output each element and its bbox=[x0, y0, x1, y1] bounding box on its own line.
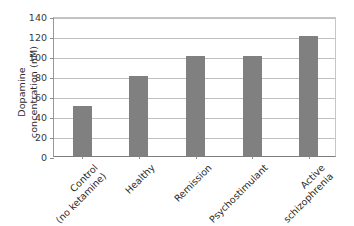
bar[interactable] bbox=[299, 36, 318, 156]
y-axis-tick-label: 60 bbox=[7, 92, 47, 103]
x-axis-tick-label-line: Healthy bbox=[123, 162, 157, 196]
y-axis-tick-mark bbox=[50, 138, 54, 139]
y-axis-tick-label: 120 bbox=[7, 32, 47, 43]
gridline bbox=[54, 38, 335, 39]
y-axis-tick-mark bbox=[50, 58, 54, 59]
x-axis-tick-mark bbox=[196, 156, 197, 159]
x-axis-tick-mark bbox=[139, 156, 140, 159]
bar[interactable] bbox=[73, 106, 92, 156]
y-axis-tick-label: 40 bbox=[7, 112, 47, 123]
bar[interactable] bbox=[243, 56, 262, 156]
x-axis-tick-label: Control(no ketamine) bbox=[45, 162, 108, 225]
bar[interactable] bbox=[129, 76, 148, 156]
x-axis-tick-mark bbox=[82, 156, 83, 159]
x-axis-tick-label: Activeschizophrenia bbox=[272, 162, 335, 225]
x-axis-tick-label-line: Remission bbox=[171, 162, 213, 204]
y-axis-tick-mark bbox=[50, 118, 54, 119]
y-axis-tick-label: 20 bbox=[7, 132, 47, 143]
x-axis-tick-mark bbox=[252, 156, 253, 159]
y-axis-tick-mark bbox=[50, 18, 54, 19]
bar[interactable] bbox=[186, 56, 205, 156]
plot-area bbox=[53, 17, 336, 157]
y-axis-tick-mark bbox=[50, 98, 54, 99]
y-axis-tick-label: 80 bbox=[7, 72, 47, 83]
y-axis-tick-label: 100 bbox=[7, 52, 47, 63]
y-axis-tick-label: 0 bbox=[7, 152, 47, 163]
x-axis-tick-label: Healthy bbox=[123, 162, 157, 196]
x-axis-tick-label: Psychostimulant bbox=[207, 162, 270, 225]
y-axis-tick-mark bbox=[50, 38, 54, 39]
y-axis-tick-mark bbox=[50, 158, 54, 159]
bar-chart: Dopamine concentration (nM) 020406080100… bbox=[0, 0, 354, 226]
y-axis-tick-mark bbox=[50, 78, 54, 79]
y-axis-tick-label: 140 bbox=[7, 12, 47, 23]
x-axis-tick-label-line: Psychostimulant bbox=[207, 162, 270, 225]
x-axis-tick-mark bbox=[309, 156, 310, 159]
gridline bbox=[54, 18, 335, 19]
x-axis-tick-label: Remission bbox=[171, 162, 213, 204]
